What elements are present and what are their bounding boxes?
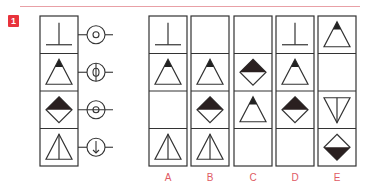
option-a[interactable] [149, 16, 187, 166]
circle-down-arrow-connector-icon [78, 138, 113, 156]
option-e[interactable] [318, 16, 356, 166]
stem-inverted-t-icon [46, 23, 72, 45]
option-b[interactable] [191, 16, 229, 166]
stem-triangle-black-tip-icon [46, 59, 72, 84]
option-label-d[interactable]: D [280, 172, 310, 183]
option-label-e[interactable]: E [322, 172, 352, 183]
circle-dot-line-connector-icon [78, 101, 113, 119]
circle-phi-connector-icon [78, 63, 113, 81]
circle-dot-connector-icon [78, 26, 113, 44]
option-label-a[interactable]: A [153, 172, 183, 183]
option-c[interactable] [234, 16, 272, 166]
option-label-b[interactable]: B [195, 172, 225, 183]
option-d[interactable] [276, 16, 314, 166]
stem-triangle-vertical-line-icon [46, 134, 72, 159]
stem-diamond-black-top-icon [46, 97, 72, 123]
figure-canvas [0, 0, 374, 191]
option-label-c[interactable]: C [238, 172, 268, 183]
stem-column [40, 16, 113, 166]
